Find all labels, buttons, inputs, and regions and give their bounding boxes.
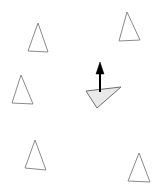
- triangle-outline-bottom-left[interactable]: [25, 140, 46, 170]
- triangle-outline-mid-left[interactable]: [12, 75, 33, 104]
- simulation-canvas: [0, 0, 162, 189]
- triangle-filled-center-selected[interactable]: [86, 87, 121, 108]
- triangle-outline-top-right[interactable]: [119, 12, 140, 41]
- triangle-outline-bottom-right[interactable]: [128, 153, 150, 182]
- scene-svg: [0, 0, 162, 189]
- velocity-arrow-head: [96, 62, 104, 74]
- triangle-outline-top-left[interactable]: [28, 23, 48, 52]
